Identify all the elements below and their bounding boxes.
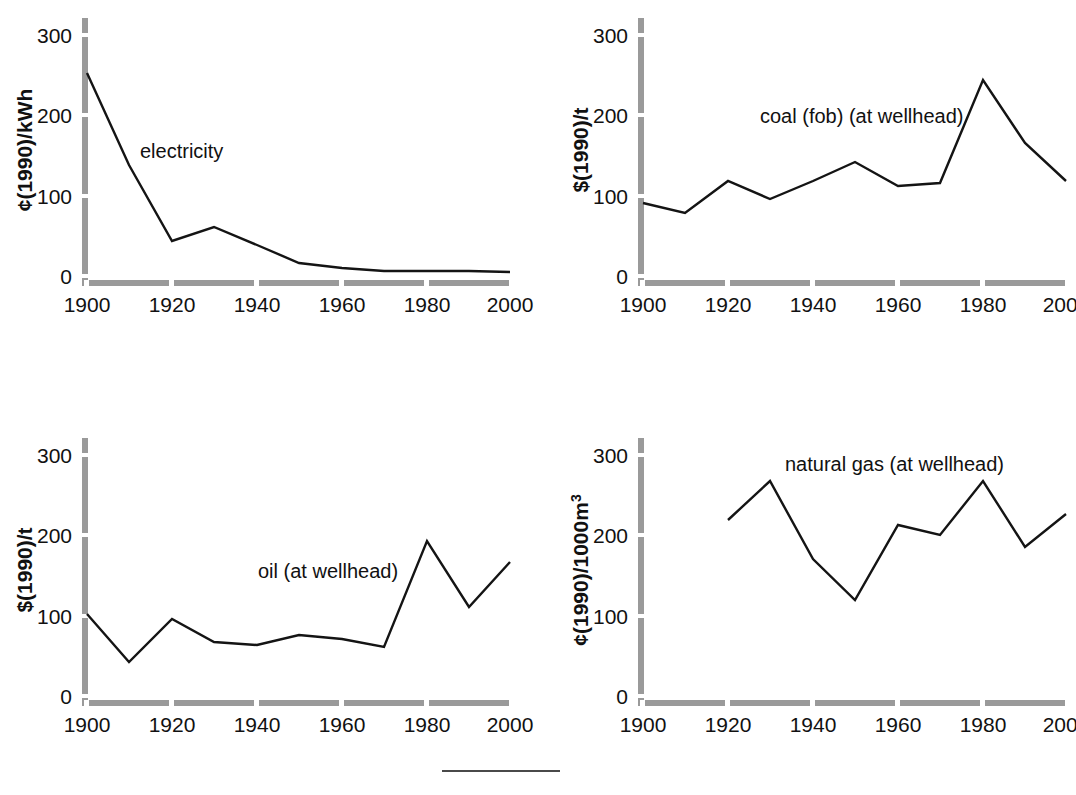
oil-y-axis-label: $(1990)/t (13, 527, 36, 612)
coal-series-label: coal (fob) (at wellhead) (760, 105, 963, 127)
coal-xtick-2000: 2000 (1043, 293, 1076, 316)
natural-gas-x-axis (638, 700, 1070, 706)
natural-gas-y-axis-label-superscript: 3 (568, 494, 584, 502)
natural-gas-xtick-1920: 1920 (705, 713, 752, 736)
oil-series-label: oil (at wellhead) (258, 560, 398, 582)
natural-gas-y-axis (638, 438, 644, 700)
natural-gas-ytick-100: 100 (593, 605, 628, 628)
figure-caption-cropped (250, 784, 850, 795)
electricity-xtick-1940: 1940 (234, 293, 281, 316)
oil-xtick-1920: 1920 (149, 713, 196, 736)
chart-panel-coal: 300 200 100 0 1900 1920 1940 1960 1980 2… (538, 0, 1076, 340)
electricity-x-axis (82, 280, 514, 286)
coal-ytick-300: 300 (593, 24, 628, 47)
electricity-svg: 300 200 100 0 1900 1920 1940 1960 1980 2… (0, 0, 538, 340)
electricity-xtick-1980: 1980 (404, 293, 451, 316)
figure-caption-rule (442, 770, 560, 772)
coal-y-axis-label: $(1990)/t (569, 107, 592, 192)
oil-xtick-1900: 1900 (64, 713, 111, 736)
electricity-xtick-2000: 2000 (487, 293, 534, 316)
electricity-xtick-1920: 1920 (149, 293, 196, 316)
chart-panel-oil: 300 200 100 0 1900 1920 1940 1960 1980 2… (0, 420, 538, 760)
natural-gas-xtick-1900: 1900 (620, 713, 667, 736)
oil-ytick-100: 100 (37, 605, 72, 628)
natural-gas-svg: 300 200 100 0 1900 1920 1940 1960 1980 2… (538, 420, 1076, 760)
coal-x-axis (638, 280, 1070, 286)
natural-gas-data-line (728, 481, 1066, 600)
oil-ytick-300: 300 (37, 444, 72, 467)
oil-x-axis (82, 700, 514, 706)
coal-ytick-100: 100 (593, 185, 628, 208)
natural-gas-ytick-200: 200 (593, 524, 628, 547)
coal-xtick-1940: 1940 (790, 293, 837, 316)
chart-panel-natural-gas: 300 200 100 0 1900 1920 1940 1960 1980 2… (538, 420, 1076, 760)
electricity-data-line (87, 73, 510, 272)
electricity-y-axis-label: ¢(1990)/kWh (13, 89, 36, 212)
natural-gas-xtick-1940: 1940 (790, 713, 837, 736)
electricity-ytick-200: 200 (37, 104, 72, 127)
oil-ytick-200: 200 (37, 524, 72, 547)
coal-xtick-1900: 1900 (620, 293, 667, 316)
electricity-ytick-300: 300 (37, 24, 72, 47)
electricity-y-axis (82, 18, 88, 280)
oil-svg: 300 200 100 0 1900 1920 1940 1960 1980 2… (0, 420, 538, 760)
coal-data-line (643, 80, 1066, 213)
natural-gas-xtick-1960: 1960 (875, 713, 922, 736)
natural-gas-y-axis-label-main: ¢(1990)/1000m (569, 502, 592, 646)
electricity-xtick-1900: 1900 (64, 293, 111, 316)
electricity-series-label: electricity (140, 140, 223, 162)
natural-gas-xtick-2000: 2000 (1043, 713, 1076, 736)
oil-y-axis (82, 438, 88, 700)
electricity-ytick-100: 100 (37, 185, 72, 208)
oil-xtick-1960: 1960 (319, 713, 366, 736)
natural-gas-series-label: natural gas (at wellhead) (785, 453, 1004, 475)
coal-xtick-1960: 1960 (875, 293, 922, 316)
oil-ytick-0: 0 (60, 685, 72, 708)
coal-ytick-0: 0 (616, 265, 628, 288)
natural-gas-y-axis-label: ¢(1990)/1000m3 (568, 494, 592, 646)
coal-ytick-200: 200 (593, 104, 628, 127)
natural-gas-ytick-300: 300 (593, 444, 628, 467)
chart-panel-electricity: 300 200 100 0 1900 1920 1940 1960 1980 2… (0, 0, 538, 340)
electricity-ytick-0: 0 (60, 265, 72, 288)
oil-xtick-1940: 1940 (234, 713, 281, 736)
coal-svg: 300 200 100 0 1900 1920 1940 1960 1980 2… (538, 0, 1076, 340)
electricity-xtick-1960: 1960 (319, 293, 366, 316)
natural-gas-xtick-1980: 1980 (960, 713, 1007, 736)
oil-xtick-1980: 1980 (404, 713, 451, 736)
coal-y-axis (638, 18, 644, 280)
coal-xtick-1920: 1920 (705, 293, 752, 316)
natural-gas-ytick-0: 0 (616, 685, 628, 708)
figure-four-energy-price-charts: 300 200 100 0 1900 1920 1940 1960 1980 2… (0, 0, 1076, 795)
oil-xtick-2000: 2000 (487, 713, 534, 736)
coal-xtick-1980: 1980 (960, 293, 1007, 316)
